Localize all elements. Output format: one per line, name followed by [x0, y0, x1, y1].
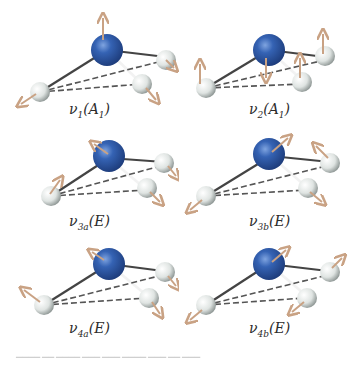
central-atom — [93, 140, 125, 172]
hydrogen-atom-right — [320, 262, 340, 282]
mode-label-v3b: ν3b(E) — [180, 213, 359, 232]
mode-label-v2: ν2(A1) — [180, 101, 359, 120]
mode-label-v4a: ν4a(E) — [0, 320, 179, 339]
central-atom — [253, 248, 285, 280]
mode-panel-v3a: ν3a(E) — [0, 118, 179, 228]
molecule-diagram — [0, 118, 179, 228]
mode-panel-v4b: ν4b(E) — [180, 232, 359, 342]
mode-panel-v4a: ν4a(E) — [0, 232, 179, 342]
mode-label-v3a: ν3a(E) — [0, 213, 179, 232]
central-atom — [93, 248, 125, 280]
hydrogen-atom-front — [292, 72, 312, 92]
hydrogen-atom-right — [155, 262, 175, 282]
mode-label-v4b: ν4b(E) — [180, 320, 359, 339]
central-atom — [91, 34, 123, 66]
hydrogen-atom-left — [34, 295, 54, 315]
hydrogen-atom-left — [30, 82, 50, 102]
hydrogen-atom-front — [139, 288, 159, 308]
hydrogen-atom-left — [41, 186, 61, 206]
mode-panel-v1: ν1(A1) — [0, 0, 179, 110]
molecule-diagram — [180, 118, 359, 228]
molecule-diagram — [180, 0, 359, 110]
central-atom — [253, 138, 285, 170]
mode-label-v1: ν1(A1) — [0, 101, 179, 120]
mode-panel-v2: ν2(A1) — [180, 0, 359, 110]
molecule-diagram — [0, 0, 179, 110]
hydrogen-atom-right — [320, 153, 340, 173]
hydrogen-atom-right — [315, 46, 335, 66]
mode-panel-v3b: ν3b(E) — [180, 118, 359, 228]
central-atom — [253, 34, 285, 66]
figure-caption: ▁▁▁▁ ▁▁ ▁▁▁▁ ▁▁▁ ▁▁▁ ▁▁▁▁ ▁▁▁ ▁▁ ▁▁▁ — [14, 350, 344, 358]
